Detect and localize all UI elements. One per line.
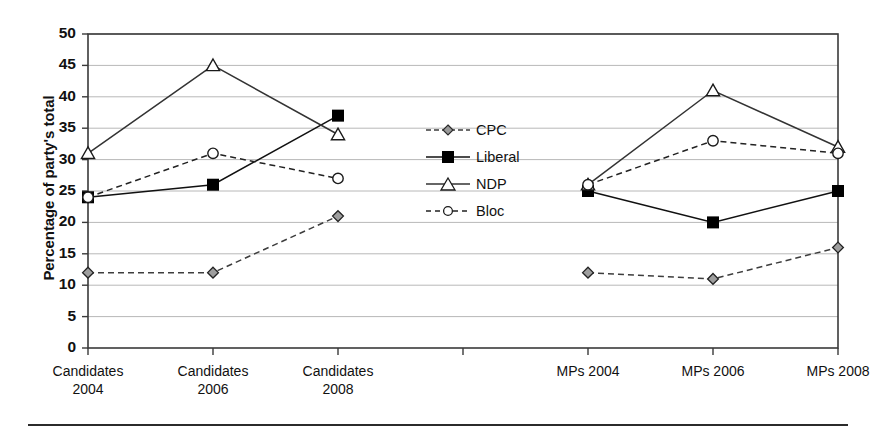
x-axis-tick-label: MPs 2006 <box>648 362 778 380</box>
y-axis-tick-label: 0 <box>32 338 76 356</box>
chart-legend: CPC Liberal NDP Bloc <box>425 116 565 224</box>
y-axis-tick-label: 35 <box>32 118 76 136</box>
legend-sample-cpc <box>425 121 471 139</box>
legend-sample-bloc <box>425 202 471 220</box>
legend-label-liberal: Liberal <box>476 149 520 165</box>
legend-label-cpc: CPC <box>476 122 507 138</box>
bottom-divider <box>28 424 848 426</box>
legend-label-bloc: Bloc <box>476 203 504 219</box>
legend-sample-ndp <box>425 175 471 193</box>
x-axis-tick-label: Candidates 2008 <box>273 362 403 399</box>
x-axis-tick-label: MPs 2004 <box>523 362 653 380</box>
y-axis-tick-label: 45 <box>32 55 76 73</box>
legend-item-cpc[interactable]: CPC <box>425 116 565 143</box>
legend-label-ndp: NDP <box>476 176 507 192</box>
legend-sample-liberal <box>425 148 471 166</box>
x-axis-tick-label: Candidates 2006 <box>148 362 278 399</box>
y-axis-tick-label: 40 <box>32 87 76 105</box>
y-axis-tick-label: 30 <box>32 150 76 168</box>
legend-item-ndp[interactable]: NDP <box>425 170 565 197</box>
x-axis-tick-label: MPs 2008 <box>773 362 876 380</box>
y-axis-tick-label: 25 <box>32 181 76 199</box>
y-axis-tick-label: 10 <box>32 275 76 293</box>
y-axis-tick-label: 50 <box>32 24 76 42</box>
y-axis-tick-label: 15 <box>32 244 76 262</box>
x-axis-tick-label: Candidates 2004 <box>23 362 153 399</box>
y-axis-tick-label: 5 <box>32 307 76 325</box>
y-axis-tick-label: 20 <box>32 212 76 230</box>
chart-figure: Percentage of party's total CPC Liberal … <box>0 0 876 435</box>
legend-item-bloc[interactable]: Bloc <box>425 197 565 224</box>
legend-item-liberal[interactable]: Liberal <box>425 143 565 170</box>
